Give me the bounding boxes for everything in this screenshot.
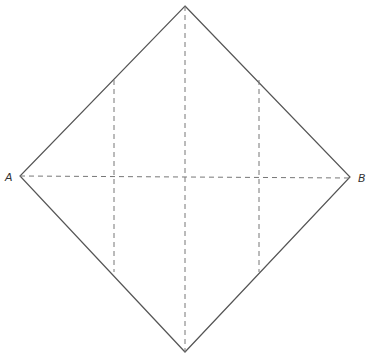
folding-diagram: A B xyxy=(0,0,369,361)
label-a: A xyxy=(4,171,13,184)
label-b: B xyxy=(358,172,366,185)
